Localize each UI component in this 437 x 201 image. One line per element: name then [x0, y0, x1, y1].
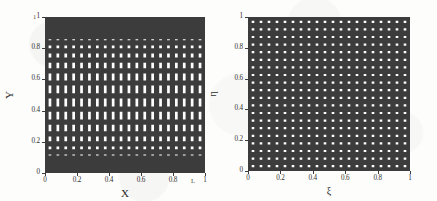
physical-grid-x-tick-label: 1 [203, 177, 206, 184]
computational-grid-x-tick-label: 0.4 [309, 175, 317, 182]
physical-x-axis-title: X [121, 187, 129, 199]
computational-grid-x-tick-label: 1 [408, 175, 411, 182]
computational-grid-x-tick-label: 0.2 [276, 175, 284, 182]
physical-plot-frame [45, 17, 205, 173]
computational-grid-y-tickmark [245, 109, 248, 110]
figure-page: 1 L X Y 00.20.40.60.8100.20.40.60.81 ξ η… [0, 0, 437, 201]
physical-grid-x-tick-label: 0.4 [105, 177, 113, 184]
physical-grid-x-tick-label: 0 [43, 177, 46, 184]
computational-grid-y-tick-label: 0 [218, 167, 243, 174]
physical-grid-y-tickmark [42, 142, 45, 143]
computational-grid-y-tick-label: 0.4 [218, 106, 243, 113]
physical-grid-y-tick-label: 0.8 [15, 45, 40, 52]
physical-corner-label-bottom-right: L [191, 177, 195, 184]
computational-grid-y-tickmark [245, 17, 248, 18]
computational-grid-y-tick-label: 1 [218, 13, 243, 20]
physical-grid-y-tickmark [42, 111, 45, 112]
physical-grid-x-tick-label: 0.2 [73, 177, 81, 184]
computational-x-axis-title: ξ [327, 185, 331, 196]
physical-grid-lines [46, 18, 204, 172]
computational-grid-panel: ξ η 00.20.40.60.8100.20.40.60.81 [218, 0, 437, 201]
computational-grid-x-tick-label: 0.8 [373, 175, 381, 182]
computational-grid-x-tick-label: 0.6 [341, 175, 349, 182]
physical-grid-y-tickmark [42, 17, 45, 18]
physical-grid-x-tick-label: 0.6 [137, 177, 145, 184]
computational-grid-y-tickmark [245, 48, 248, 49]
computational-grid-y-tick-label: 0.2 [218, 137, 243, 144]
computational-plot-frame [248, 17, 410, 171]
physical-grid-y-tick-label: 1 [15, 13, 40, 20]
physical-grid-y-tick-label: 0.4 [15, 107, 40, 114]
physical-grid-y-tick-label: 0.2 [15, 138, 40, 145]
physical-grid-y-tickmark [42, 173, 45, 174]
computational-grid-x-tick-label: 0 [246, 175, 249, 182]
physical-grid-y-tickmark [42, 79, 45, 80]
physical-grid-panel: 1 L X Y 00.20.40.60.8100.20.40.60.81 [0, 0, 218, 201]
physical-grid-y-tick-label: 0.6 [15, 76, 40, 83]
computational-grid-y-tick-label: 0.6 [218, 75, 243, 82]
computational-grid-y-tickmark [245, 140, 248, 141]
physical-grid-x-tick-label: 0.8 [169, 177, 177, 184]
physical-grid-y-tickmark [42, 48, 45, 49]
computational-grid-y-tickmark [245, 79, 248, 80]
computational-grid-y-tickmark [245, 171, 248, 172]
computational-y-axis-title: η [207, 91, 218, 96]
computational-grid-y-tick-label: 0.8 [218, 44, 243, 51]
computational-grid-lines [249, 18, 409, 170]
physical-grid-y-tick-label: 0 [15, 169, 40, 176]
physical-y-axis-title: Y [3, 91, 15, 99]
